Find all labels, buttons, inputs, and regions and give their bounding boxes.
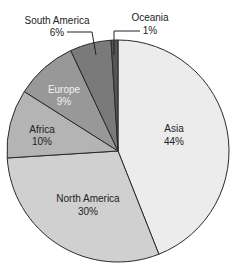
label-europe-pct: 9% — [57, 96, 72, 107]
pie-slices — [7, 40, 229, 262]
label-oceania-pct: 1% — [143, 25, 158, 36]
label-north-america-pct: 30% — [78, 206, 98, 217]
label-asia-pct: 44% — [164, 136, 184, 147]
label-north-america-name: North America — [56, 193, 120, 204]
label-asia-name: Asia — [164, 123, 184, 134]
label-oceania-name: Oceania — [131, 12, 169, 23]
pie-chart: Asia 44% North America 30% Africa 10% Eu… — [0, 0, 240, 272]
label-africa-name: Africa — [29, 124, 55, 135]
label-africa-pct: 10% — [32, 136, 52, 147]
label-europe-name: Europe — [48, 84, 81, 95]
label-south-america-name: South America — [24, 15, 89, 26]
label-south-america-pct: 6% — [50, 27, 65, 38]
